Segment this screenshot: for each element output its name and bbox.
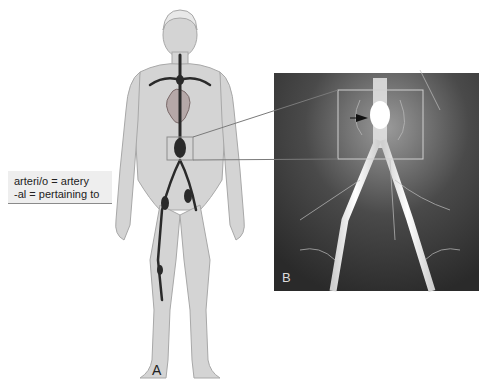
glossary-term-arterio: arteri/o = artery <box>14 175 89 187</box>
xray-panel <box>274 70 479 291</box>
glossary-term-al: -al = pertaining to <box>14 188 99 200</box>
panel-b-label: B <box>282 270 291 285</box>
figure-canvas: arteri/o = artery -al = pertaining to A … <box>0 0 488 385</box>
panel-a-label: A <box>152 362 161 378</box>
glossary-box: arteri/o = artery -al = pertaining to <box>8 171 112 204</box>
